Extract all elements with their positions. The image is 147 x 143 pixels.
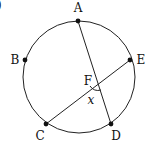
label-C: C bbox=[35, 129, 44, 143]
corner-mark: ) bbox=[0, 0, 2, 12]
label-F: F bbox=[84, 74, 92, 88]
label-A: A bbox=[73, 1, 83, 15]
chord-AD bbox=[78, 21, 111, 124]
chord-CE bbox=[46, 60, 130, 124]
circle-diagram: ) A B E C D F x bbox=[0, 0, 147, 143]
label-E: E bbox=[137, 53, 146, 67]
circle bbox=[23, 21, 135, 133]
point-B bbox=[23, 58, 28, 63]
point-E bbox=[128, 58, 133, 63]
label-D: D bbox=[111, 129, 121, 143]
label-B: B bbox=[11, 53, 20, 67]
angle-label-x: x bbox=[88, 93, 95, 107]
point-A bbox=[76, 19, 81, 24]
point-C bbox=[44, 122, 49, 127]
point-D bbox=[109, 122, 114, 127]
